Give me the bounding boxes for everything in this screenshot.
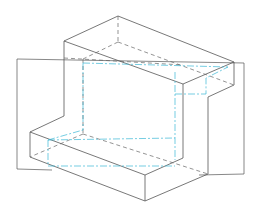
lower-bottom-front-edge — [30, 157, 145, 201]
hidden-back-right — [118, 42, 234, 85]
section-lower-top — [48, 138, 175, 140]
upper-top-right-edge — [183, 62, 234, 84]
hidden-back-left — [83, 42, 118, 59]
upper-step-edge — [208, 85, 234, 97]
hidden-bottom-left — [30, 134, 83, 157]
hidden-edges — [30, 16, 234, 174]
upper-top-left-edge — [64, 16, 118, 41]
lower-bottom-right-edge — [145, 174, 208, 201]
lower-top-right-edge — [145, 158, 183, 175]
lower-block — [30, 116, 208, 201]
section-outline-lower — [48, 130, 83, 140]
section-lines — [48, 63, 228, 166]
section-outline-upper — [83, 63, 228, 94]
cutting-plane-edge-left — [17, 59, 52, 170]
upper-top-back-edge — [118, 16, 234, 62]
upper-top-front-edge — [64, 41, 183, 84]
stepped-block-drawing — [0, 0, 259, 212]
lower-top-back-edge — [30, 116, 64, 132]
hidden-bottom-back — [83, 134, 208, 174]
upper-block — [64, 16, 234, 174]
